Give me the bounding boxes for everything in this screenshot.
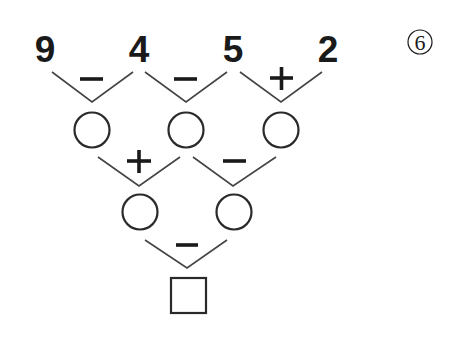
top-number-4: 2 bbox=[318, 29, 339, 70]
answer-box[interactable] bbox=[171, 278, 206, 313]
problem-number-label: 6 bbox=[408, 30, 432, 55]
top-number-1: 9 bbox=[35, 29, 56, 70]
answer-circle-r2-2[interactable] bbox=[217, 195, 252, 230]
number-pyramid-diagram: 9 4 5 2 6 bbox=[0, 0, 454, 346]
plus-icon bbox=[270, 67, 293, 90]
top-number-2: 4 bbox=[129, 29, 150, 70]
plus-icon bbox=[127, 150, 151, 173]
answer-circle-r1-3[interactable] bbox=[264, 113, 299, 148]
top-number-3: 5 bbox=[223, 29, 244, 70]
connector-v-1 bbox=[52, 72, 133, 102]
answer-circle-r2-1[interactable] bbox=[123, 195, 158, 230]
answer-circle-r1-2[interactable] bbox=[169, 113, 204, 148]
connector-v-2 bbox=[145, 72, 227, 102]
label-text: 6 bbox=[415, 30, 426, 55]
answer-circle-r1-1[interactable] bbox=[75, 113, 110, 148]
